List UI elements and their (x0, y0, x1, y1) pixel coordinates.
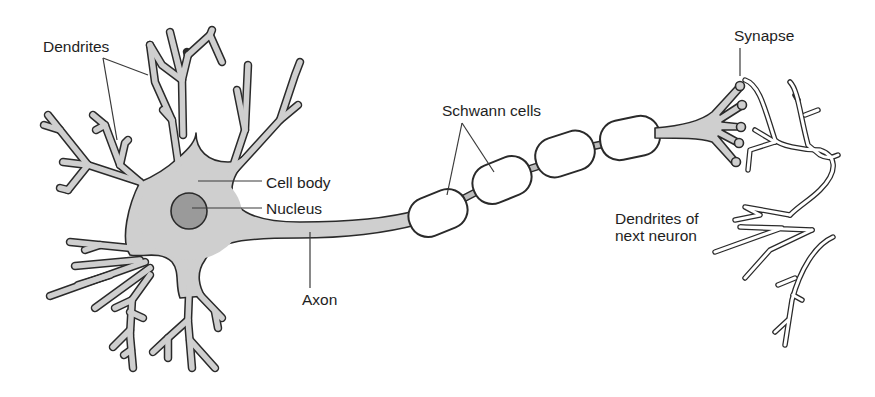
next-neuron-dendrites (715, 80, 838, 345)
leader-schwann-2 (462, 123, 494, 172)
label-dendrites-next-2: next neuron (615, 227, 697, 244)
leader-dendrites-1 (103, 58, 148, 75)
label-dendrites-next-1: Dendrites of (615, 210, 699, 227)
label-synapse: Synapse (734, 27, 794, 44)
label-schwann-cells: Schwann cells (442, 102, 541, 119)
label-dendrites: Dendrites (43, 38, 109, 55)
axon-terminal (655, 82, 747, 167)
neuron-diagram (0, 0, 875, 397)
label-nucleus: Nucleus (266, 200, 322, 217)
nucleus (171, 193, 207, 229)
leader-schwann-1 (447, 123, 462, 195)
label-cell-body: Cell body (266, 174, 331, 191)
label-axon: Axon (302, 291, 337, 308)
